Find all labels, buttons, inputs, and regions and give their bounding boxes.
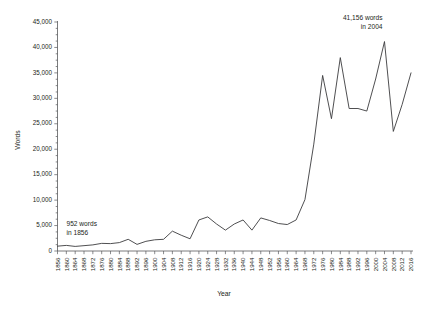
x-tick-label: 1872 xyxy=(89,257,96,271)
x-axis-title: Year xyxy=(217,290,231,297)
x-tick-label: 1888 xyxy=(124,257,131,271)
x-tick-label: 1876 xyxy=(98,257,105,271)
x-tick-label: 1980 xyxy=(328,257,335,271)
x-tick-label: 1920 xyxy=(195,257,202,271)
x-tick-label: 1916 xyxy=(186,257,193,271)
x-tick-label: 1996 xyxy=(363,257,370,271)
y-tick-label: 15,000 xyxy=(33,170,53,177)
x-tick-label: 1964 xyxy=(292,257,299,271)
x-tick-label: 1952 xyxy=(266,257,273,271)
x-tick-label: 1912 xyxy=(177,257,184,271)
x-tick-label: 1900 xyxy=(151,257,158,271)
x-tick-label: 1948 xyxy=(257,257,264,271)
x-tick-label: 1924 xyxy=(204,257,211,271)
x-tick-label: 1968 xyxy=(301,257,308,271)
y-tick-label: 40,000 xyxy=(33,43,53,50)
x-tick-label: 1988 xyxy=(345,257,352,271)
x-tick-label: 1976 xyxy=(319,257,326,271)
x-tick-label: 1904 xyxy=(160,257,167,271)
y-tick-label: 10,000 xyxy=(33,196,53,203)
x-tick-label: 1944 xyxy=(248,257,255,271)
y-tick-label: 25,000 xyxy=(33,119,53,126)
annotation-line-2: in 1856 xyxy=(67,229,89,236)
x-tick-label: 2008 xyxy=(390,257,397,271)
words-trend-line xyxy=(58,42,412,247)
x-tick-label: 1932 xyxy=(222,257,229,271)
x-tick-label: 2012 xyxy=(398,257,405,271)
x-tick-label: 1984 xyxy=(337,257,344,271)
annotation-line-1: 41,156 words xyxy=(343,14,383,21)
x-tick-label: 1928 xyxy=(213,257,220,271)
x-tick-label: 1960 xyxy=(283,257,290,271)
words-per-year-line-chart: 05,00010,00015,00020,00025,00030,00035,0… xyxy=(0,0,430,309)
x-tick-label: 1856 xyxy=(54,257,61,271)
chart-annotations: 952 wordsin 185641,156 wordsin 2004 xyxy=(67,14,384,237)
y-tick-label: 45,000 xyxy=(33,18,53,25)
x-tick-label: 1908 xyxy=(169,257,176,271)
annotation-peak-point: 41,156 wordsin 2004 xyxy=(343,14,383,30)
x-tick-label: 2004 xyxy=(381,257,388,271)
x-tick-label: 1880 xyxy=(107,257,114,271)
y-tick-label: 20,000 xyxy=(33,145,53,152)
x-tick-label: 1864 xyxy=(71,257,78,271)
x-tick-label: 1884 xyxy=(116,257,123,271)
y-axis: 05,00010,00015,00020,00025,00030,00035,0… xyxy=(33,18,58,254)
y-tick-label: 5,000 xyxy=(36,221,52,228)
x-tick-label: 1892 xyxy=(133,257,140,271)
x-tick-label: 1868 xyxy=(80,257,87,271)
chart-container: 05,00010,00015,00020,00025,00030,00035,0… xyxy=(0,0,430,309)
annotation-first-point: 952 wordsin 1856 xyxy=(67,220,98,236)
x-axis: 1856186018641868187218761880188418881892… xyxy=(54,251,415,271)
x-tick-label: 1940 xyxy=(239,257,246,271)
x-tick-label: 1896 xyxy=(142,257,149,271)
x-tick-label: 1972 xyxy=(310,257,317,271)
y-tick-label: 0 xyxy=(48,247,52,254)
y-tick-label: 35,000 xyxy=(33,69,53,76)
annotation-line-2: in 2004 xyxy=(361,23,383,30)
y-axis-title: Words xyxy=(14,130,21,150)
x-tick-label: 1992 xyxy=(354,257,361,271)
x-tick-label: 2016 xyxy=(407,257,414,271)
x-tick-label: 1956 xyxy=(275,257,282,271)
annotation-line-1: 952 words xyxy=(67,220,98,227)
x-tick-label: 1860 xyxy=(63,257,70,271)
x-tick-label: 1936 xyxy=(230,257,237,271)
x-tick-label: 2000 xyxy=(372,257,379,271)
y-tick-label: 30,000 xyxy=(33,94,53,101)
